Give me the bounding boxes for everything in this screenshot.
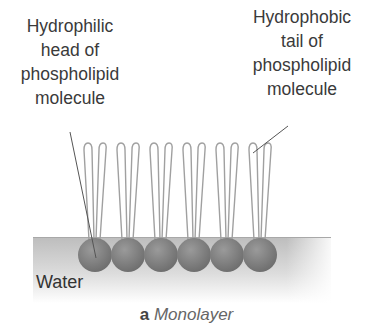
phospholipid-head bbox=[177, 238, 211, 272]
phospholipid-head bbox=[144, 238, 178, 272]
water-label: Water bbox=[36, 272, 83, 293]
figure-caption: a Monolayer bbox=[0, 305, 373, 325]
hydrophilic-head-label: Hydrophilic head of phospholipid molecul… bbox=[0, 14, 140, 110]
caption-title: Monolayer bbox=[154, 305, 233, 324]
hydrophobic-tails bbox=[84, 143, 271, 240]
phospholipid-head bbox=[243, 238, 277, 272]
phospholipid-head bbox=[210, 238, 244, 272]
caption-letter: a bbox=[140, 305, 149, 324]
hydrophobic-tail-label: Hydrophobic tail of phospholipid molecul… bbox=[232, 5, 372, 101]
phospholipid-head bbox=[111, 238, 145, 272]
